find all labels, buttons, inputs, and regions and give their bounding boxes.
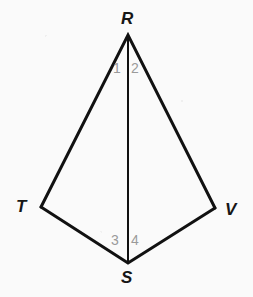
angle-label-1: 1 <box>113 61 121 75</box>
angle-label-2: 2 <box>131 61 139 75</box>
vertex-label-T: T <box>16 198 26 215</box>
vertex-label-R: R <box>121 10 133 27</box>
angle-label-3: 3 <box>111 233 119 247</box>
vertex-label-S: S <box>121 269 132 286</box>
geometry-figure: R T V S 1 2 3 4 <box>0 0 253 297</box>
vertex-label-V: V <box>225 201 236 218</box>
angle-label-4: 4 <box>131 233 139 247</box>
geometry-canvas <box>0 0 253 297</box>
